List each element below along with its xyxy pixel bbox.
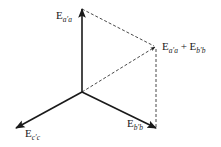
vector-sum-arrow xyxy=(82,47,155,92)
vector-e-cc-arrow xyxy=(16,92,82,128)
label-e-bb: Eb′b xyxy=(127,117,143,132)
phasor-diagram: Ea′a Ea′a + Eb′b Eb′b Ec′c xyxy=(0,0,221,147)
label-e-cc: Ec′c xyxy=(25,127,41,142)
vector-e-bb-arrow xyxy=(82,92,156,128)
construction-line-top xyxy=(82,9,154,46)
label-sum: Ea′a + Eb′b xyxy=(162,40,206,55)
label-e-aa: Ea′a xyxy=(56,9,72,24)
